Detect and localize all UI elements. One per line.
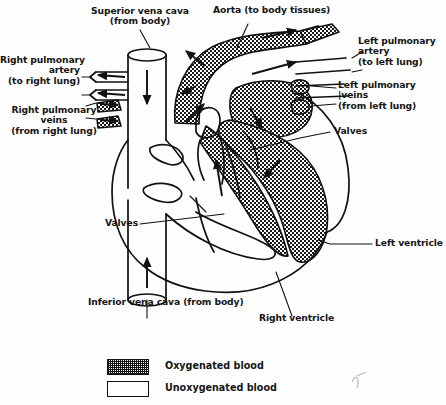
lpa-tube-1 bbox=[296, 58, 350, 74]
label-valves-right: Valves bbox=[334, 126, 394, 136]
right-atrium-border bbox=[112, 140, 146, 268]
leader-lpa-2 bbox=[352, 70, 362, 72]
svc-opening bbox=[128, 49, 166, 61]
leader-valves-left bbox=[140, 214, 224, 224]
tricuspid-leaflet-2 bbox=[143, 183, 182, 202]
label-inferior-vena-cava: Inferior vena cava (from body) bbox=[88, 297, 308, 307]
flow-arrow-rpa-out bbox=[98, 75, 125, 77]
label-right-ventricle: Right ventricle bbox=[259, 313, 351, 323]
left-pulmonary-vein-stub-2 bbox=[291, 100, 309, 114]
label-left-pulmonary-artery: Left pulmonary artery (to left lung) bbox=[358, 36, 444, 67]
flow-arrow-to-lpa bbox=[252, 62, 296, 74]
heart-diagram-figure: Superior vena cava (from body) Aorta (to… bbox=[0, 0, 446, 405]
stray-pencil-mark bbox=[352, 372, 366, 388]
legend-label-unoxygenated: Unoxygenated blood bbox=[165, 382, 277, 393]
leader-lpv bbox=[311, 86, 336, 88]
leader-svc bbox=[140, 30, 150, 48]
label-valves-left: Valves bbox=[82, 218, 138, 228]
label-superior-vena-cava: Superior vena cava (from body) bbox=[54, 6, 226, 27]
legend-swatch-oxygenated bbox=[107, 359, 149, 375]
label-left-pulmonary-veins: Left pulmonary |veins (from left lung) bbox=[338, 80, 442, 111]
label-left-ventricle: Left ventricle bbox=[375, 238, 445, 248]
label-right-pulmonary-veins: Right pulmonary veins (from right lung) bbox=[4, 105, 104, 136]
label-aorta: Aorta (to body tissues) bbox=[213, 5, 373, 15]
leader-left-ventricle bbox=[318, 240, 372, 244]
flow-arrow-rpa-out-2 bbox=[98, 93, 125, 95]
legend-label-oxygenated: Oxygenated blood bbox=[165, 360, 264, 371]
rpa-tip-2 bbox=[90, 90, 96, 100]
legend-swatch-unoxygenated bbox=[107, 381, 149, 397]
label-right-pulmonary-artery: Right pulmonary artery (to right lung) bbox=[0, 55, 80, 86]
rpa-tip-1 bbox=[90, 72, 96, 82]
left-pulmonary-vein-stub-1 bbox=[291, 80, 309, 94]
aorta-outflow-region bbox=[300, 24, 339, 44]
